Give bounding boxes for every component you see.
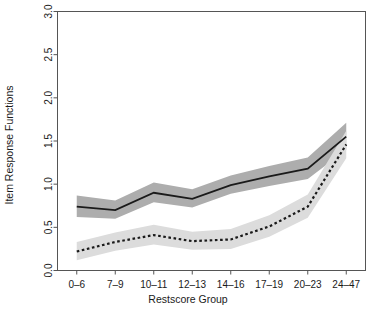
- y-tick-label: 2.5: [43, 47, 54, 61]
- x-tick-label: 17–19: [255, 279, 283, 290]
- y-tick-label: 0.0: [43, 263, 54, 277]
- x-tick-label: 24–47: [332, 279, 360, 290]
- x-tick-label: 7–9: [107, 279, 124, 290]
- y-tick-label: 0.5: [43, 220, 54, 234]
- y-tick-label: 1.5: [43, 134, 54, 148]
- y-tick-label: 2.0: [43, 90, 54, 104]
- x-axis-title: Restscore Group: [148, 293, 228, 305]
- item-response-function-chart: 0.00.51.01.52.02.53.0 0–67–910–1112–1314…: [0, 0, 376, 311]
- x-tick-label: 20–23: [294, 279, 322, 290]
- x-tick-label: 10–11: [140, 279, 168, 290]
- y-tick-label: 1.0: [43, 177, 54, 191]
- y-axis-title: Item Response Functions: [3, 85, 15, 204]
- y-tick-label: 3.0: [43, 4, 54, 18]
- x-tick-label: 0–6: [68, 279, 85, 290]
- chart-container: 0.00.51.01.52.02.53.0 0–67–910–1112–1314…: [0, 0, 376, 311]
- x-tick-label: 14–16: [217, 279, 245, 290]
- x-tick-label: 12–13: [178, 279, 206, 290]
